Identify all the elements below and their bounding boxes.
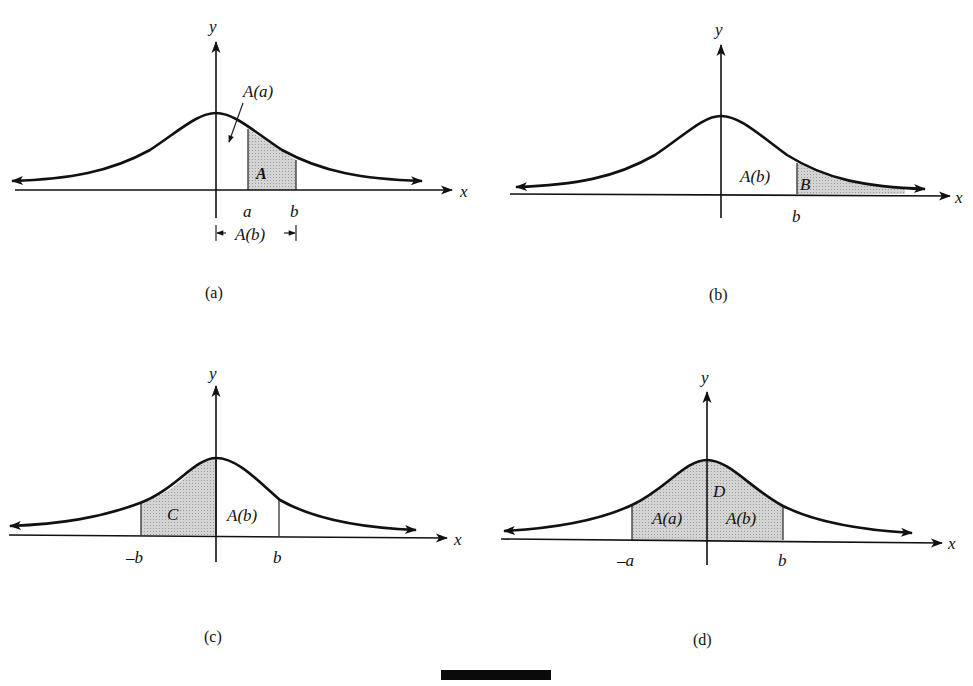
x-axis — [510, 194, 950, 196]
x-axis-label: x — [947, 534, 956, 553]
x-axis-label: x — [453, 530, 462, 549]
label-A-of-b: A(b) — [725, 509, 757, 528]
normal-curve-figure: y x A(a) A a b A(b) (a) y x A(b) B b (b)… — [0, 0, 973, 686]
label-D: D — [712, 482, 726, 501]
tick-label-b: b — [792, 207, 801, 226]
tick-label-neg-b: –b — [125, 548, 143, 567]
panel-b: y x A(b) B b (b) — [510, 20, 963, 304]
label-B: B — [800, 175, 811, 194]
panel-a: y x A(a) A a b A(b) (a) — [12, 17, 468, 302]
label-A-of-a: A(a) — [651, 509, 683, 528]
tick-label-b: b — [290, 202, 299, 221]
label-A-of-a: A(a) — [242, 82, 274, 101]
panel-c: y x C A(b) –b b (c) — [9, 364, 462, 646]
x-axis-label: x — [459, 182, 468, 201]
label-C: C — [167, 505, 179, 524]
tick-label-b: b — [778, 551, 787, 570]
tick-label-b: b — [273, 548, 282, 567]
label-A-of-b: A(b) — [739, 167, 771, 186]
tick-label-a: a — [243, 202, 252, 221]
caption-d: (d) — [693, 631, 712, 649]
normal-curve — [12, 113, 422, 181]
y-axis-label: y — [207, 17, 217, 36]
bracket-label-A-of-b: A(b) — [234, 225, 266, 244]
label-A-of-b: A(b) — [226, 506, 258, 525]
caption-c: (c) — [204, 628, 222, 646]
label-A: A — [255, 165, 267, 182]
caption-b: (b) — [709, 286, 728, 304]
tick-label-neg-a: –a — [616, 551, 634, 570]
y-axis-label: y — [207, 364, 217, 383]
y-axis-label: y — [713, 20, 723, 39]
bottom-bar — [441, 670, 551, 680]
caption-a: (a) — [205, 284, 223, 302]
panel-d: y x D A(a) A(b) –a b (d) — [501, 368, 956, 649]
x-axis — [9, 535, 447, 538]
y-axis-label: y — [699, 368, 709, 387]
x-axis-label: x — [954, 188, 963, 207]
